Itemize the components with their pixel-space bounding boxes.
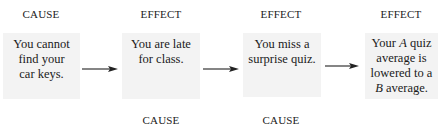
box-text-line: lowered to a <box>371 66 433 81</box>
box-text-line: You are late <box>131 37 191 52</box>
box-miss-quiz: You miss a surprise quiz. <box>243 33 321 97</box>
box-text-line: You miss a <box>248 37 315 52</box>
box-text-line: car keys. <box>13 67 70 82</box>
arrow-right-icon <box>325 61 359 71</box>
label-cause-1: CAUSE <box>1 8 81 20</box>
box-text-line: Your A quiz <box>371 36 433 51</box>
label-effect-2: EFFECT <box>241 8 321 20</box>
label-cause-2: CAUSE <box>121 114 201 126</box>
label-effect-3: EFFECT <box>361 8 440 20</box>
arrow-right-icon <box>82 64 118 74</box>
box-text-line: find your <box>13 52 70 67</box>
box-late-for-class: You are late for class. <box>122 33 200 99</box>
box-text-line: average is <box>371 51 433 66</box>
box-lowered-average: Your A quiz average is lowered to a B av… <box>365 33 438 99</box>
box-car-keys: You cannot find your car keys. <box>3 33 80 99</box>
arrow-right-icon <box>203 64 239 74</box>
box-text-line: for class. <box>131 52 191 67</box>
label-effect-1: EFFECT <box>121 8 201 20</box>
box-text-line: You cannot <box>13 37 70 52</box>
label-cause-3: CAUSE <box>241 114 321 126</box>
box-text-line: surprise quiz. <box>248 52 315 67</box>
box-text-line: B average. <box>371 81 433 96</box>
